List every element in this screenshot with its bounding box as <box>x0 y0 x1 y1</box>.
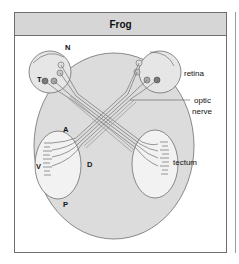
label-nerve: nerve <box>192 107 213 116</box>
label-retina: retina <box>184 69 205 78</box>
left-tectum <box>35 131 81 199</box>
right-tectum <box>132 130 178 198</box>
label-dorsal: D <box>87 160 93 169</box>
label-optic: optic <box>194 96 211 105</box>
label-ventral: V <box>36 162 41 171</box>
frog-retinotectal-diagram: N T retina optic nerve A V D P tectum <box>0 0 239 264</box>
label-posterior: P <box>63 200 68 209</box>
label-anterior: A <box>63 125 69 134</box>
label-nasal: N <box>65 43 70 52</box>
label-tectum: tectum <box>173 158 197 167</box>
left-eye <box>29 51 71 93</box>
label-temporal: T <box>37 75 42 84</box>
